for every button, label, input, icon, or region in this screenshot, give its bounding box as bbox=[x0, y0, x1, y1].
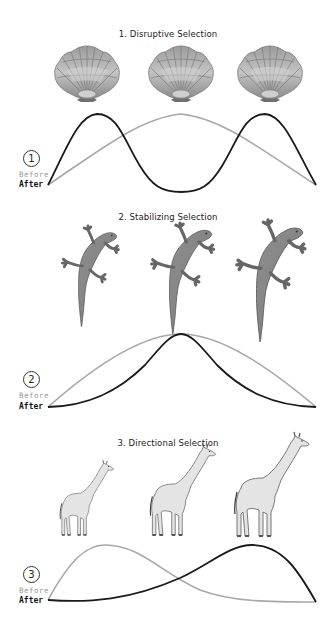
before-curve-2 bbox=[48, 334, 316, 407]
panel-1-organisms bbox=[55, 46, 303, 102]
after-curve-1 bbox=[48, 114, 316, 192]
lizard-icon bbox=[62, 226, 118, 327]
panel-3-curves bbox=[48, 545, 316, 602]
panel-3-title: 3. Directional Selection bbox=[0, 438, 336, 448]
panel-2-before-label: Before bbox=[19, 391, 49, 400]
lizard-icon bbox=[237, 220, 305, 342]
before-curve-3 bbox=[48, 545, 316, 602]
after-curve-2 bbox=[48, 334, 316, 407]
panel-3-after-label: After bbox=[19, 596, 43, 605]
illustration-canvas bbox=[0, 0, 336, 629]
panel-1-curves bbox=[48, 114, 316, 192]
panel-1-title: 1. Disruptive Selection bbox=[0, 29, 336, 39]
panel-3-before-label: Before bbox=[19, 586, 49, 595]
lizard-icon bbox=[152, 223, 214, 334]
shell-icon bbox=[55, 46, 120, 102]
panel-3-number-badge: 3 bbox=[23, 566, 40, 583]
panel-1-after-label: After bbox=[19, 180, 43, 189]
panel-2-title: 2. Stabilizing Selection bbox=[0, 212, 336, 222]
panel-2-number-badge: 2 bbox=[23, 371, 40, 388]
before-curve-1 bbox=[48, 114, 316, 185]
shell-icon bbox=[149, 46, 214, 102]
panel-1-number-badge: 1 bbox=[23, 150, 40, 167]
shell-icon bbox=[238, 46, 303, 102]
panel-2-organisms bbox=[62, 220, 304, 342]
panel-1-before-label: Before bbox=[19, 170, 49, 179]
after-curve-3 bbox=[48, 545, 316, 602]
giraffe-icon bbox=[150, 443, 215, 535]
panel-2-curves bbox=[48, 334, 316, 407]
panel-2-after-label: After bbox=[19, 402, 43, 411]
giraffe-icon bbox=[60, 460, 114, 535]
